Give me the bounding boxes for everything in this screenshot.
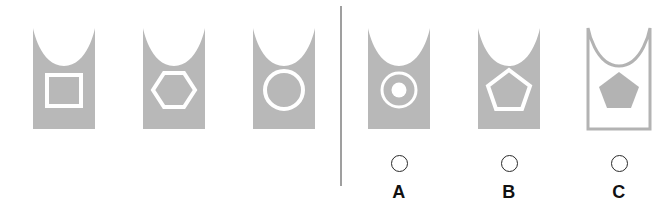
card-body-shape [143, 28, 205, 129]
answer-options-panel: A B C [334, 0, 668, 214]
choice-group-b[interactable]: B [478, 0, 540, 214]
card-body-shape [33, 28, 95, 129]
choice-label-a: A [368, 183, 430, 201]
sequence-card-square [33, 28, 95, 129]
radio-button-b[interactable] [501, 155, 518, 172]
radio-button-c[interactable] [611, 155, 628, 172]
choice-group-c[interactable]: C [588, 0, 650, 214]
sequence-panel [0, 0, 334, 214]
sequence-card-circle [253, 28, 315, 129]
choice-label-b: B [478, 183, 540, 201]
puzzle-stage: A B C [0, 0, 668, 214]
choice-group-a[interactable]: A [368, 0, 430, 214]
card-body-shape [253, 28, 315, 129]
radio-button-a[interactable] [391, 155, 408, 172]
sequence-card-hexagon [143, 28, 205, 129]
choice-label-c: C [588, 183, 650, 201]
